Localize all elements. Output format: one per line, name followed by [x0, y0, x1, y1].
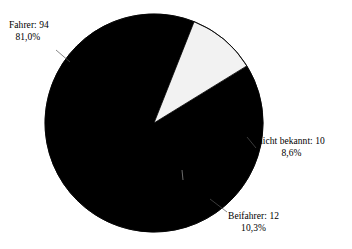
slice-label-nicht-bekannt-percent: 8,6% — [258, 148, 325, 160]
slice-label-nicht-bekannt-name: nicht bekannt: 10 — [258, 136, 325, 148]
slice-label-beifahrer: Beifahrer: 12 10,3% — [228, 211, 279, 234]
pie-chart: Fahrer: 94 81,0% nicht bekannt: 10 8,6% … — [0, 0, 352, 249]
slice-label-fahrer-name: Fahrer: 94 — [9, 20, 49, 32]
slice-label-fahrer: Fahrer: 94 81,0% — [9, 20, 49, 43]
slice-label-beifahrer-percent: 10,3% — [228, 223, 279, 235]
slice-label-fahrer-percent: 81,0% — [9, 32, 49, 44]
pie-chart-canvas — [0, 0, 352, 249]
slice-label-nicht-bekannt: nicht bekannt: 10 8,6% — [258, 136, 325, 159]
slice-label-beifahrer-name: Beifahrer: 12 — [228, 211, 279, 223]
